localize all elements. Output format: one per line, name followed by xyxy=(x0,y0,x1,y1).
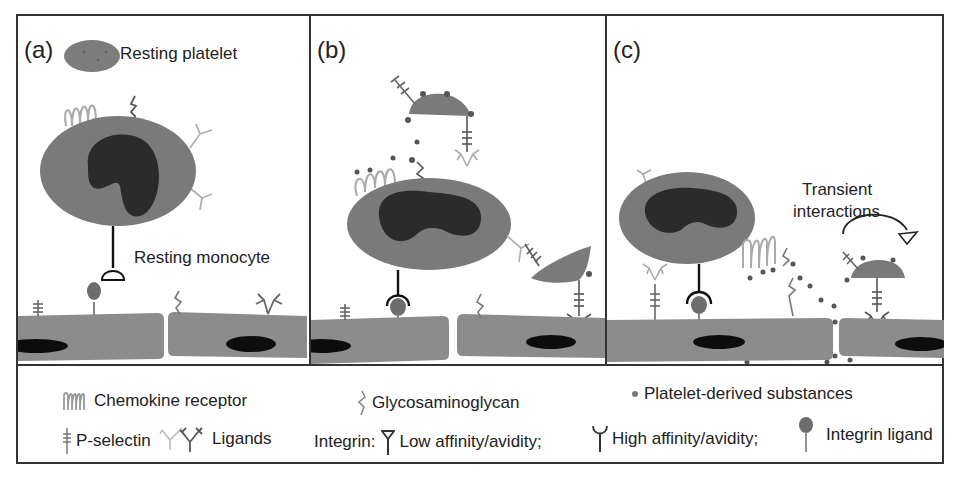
panel-label-b: (b) xyxy=(317,36,346,64)
integrin-ligand-icon xyxy=(87,282,101,300)
panel-c-illustration xyxy=(607,16,944,364)
panel-b: (b) xyxy=(309,16,605,364)
chemokine-receptor-icon xyxy=(62,390,90,412)
legend-platelet-derived-substances: Platelet-derived substances xyxy=(630,384,853,404)
transient-label-line2: interactions xyxy=(793,202,880,222)
legend-chemokine-receptor: Chemokine receptor xyxy=(62,390,247,412)
integrin-low-affinity-icon xyxy=(102,271,124,280)
legend-p-selectin: P-selectin xyxy=(62,426,151,456)
endothelial-cell xyxy=(168,312,307,358)
integrin-ligand-icon xyxy=(796,416,816,454)
panel-a: (a) Resting platelet Resting monocyte xyxy=(18,16,307,364)
legend-high-affinity: High affinity/avidity; xyxy=(592,424,758,454)
legend-integrin: Integrin: Low affinity/avidity; xyxy=(314,428,542,456)
resting-monocyte-label: Resting monocyte xyxy=(134,248,270,268)
activated-platelet-icon xyxy=(391,76,479,166)
panel-label-c: (c) xyxy=(613,36,641,64)
legend-ligands: Ligands xyxy=(158,424,272,454)
endothelial-cell xyxy=(18,313,164,361)
resting-platelet-label: Resting platelet xyxy=(120,44,237,64)
panel-b-illustration xyxy=(311,16,605,364)
p-selectin-icon xyxy=(62,426,72,456)
panel-label-a: (a) xyxy=(24,36,53,64)
panels-frame: (a) Resting platelet Resting monocyte xyxy=(16,14,944,366)
integrin-low-affinity-icon xyxy=(381,428,395,456)
p-selectin-icon xyxy=(33,300,43,316)
legend-glycosaminoglycan: Glycosaminoglycan xyxy=(356,390,519,416)
legend: Chemokine receptor Glycosaminoglycan Pla… xyxy=(16,366,944,464)
panel-c: (c) Transient interactions xyxy=(605,16,944,364)
glycosaminoglycan-icon xyxy=(356,390,368,416)
figure: (a) Resting platelet Resting monocyte xyxy=(16,14,944,464)
panel-a-illustration xyxy=(18,16,307,364)
substance-dot-icon xyxy=(630,389,640,399)
legend-integrin-ligand: Integrin ligand xyxy=(796,416,933,454)
transient-label-line1: Transient xyxy=(802,180,872,200)
ligands-icon xyxy=(158,424,208,454)
integrin-high-affinity-icon xyxy=(592,424,608,454)
resting-platelet-icon xyxy=(64,40,120,72)
